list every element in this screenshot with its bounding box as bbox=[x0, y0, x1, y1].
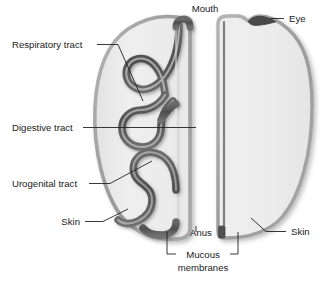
label-mucous-membranes-line2: membranes bbox=[178, 262, 229, 273]
label-urogenital-tract: Urogenital tract bbox=[12, 178, 77, 189]
diagram-canvas: Mouth Eye Respiratory tract Digestive tr… bbox=[0, 0, 328, 285]
label-digestive-tract: Digestive tract bbox=[12, 122, 73, 133]
label-skin-right: Skin bbox=[291, 226, 310, 237]
anus-opening-right bbox=[219, 226, 226, 238]
label-eye: Eye bbox=[289, 13, 306, 24]
body-surfaces-diagram: Mouth Eye Respiratory tract Digestive tr… bbox=[0, 0, 328, 285]
label-skin-left: Skin bbox=[61, 216, 80, 227]
label-mouth: Mouth bbox=[192, 3, 219, 14]
label-mucous-membranes-line1: Mucous bbox=[186, 249, 220, 260]
right-body-half bbox=[218, 16, 312, 238]
label-respiratory-tract: Respiratory tract bbox=[12, 39, 83, 50]
label-anus: Anus bbox=[190, 227, 212, 238]
right-body-outline bbox=[218, 16, 312, 238]
